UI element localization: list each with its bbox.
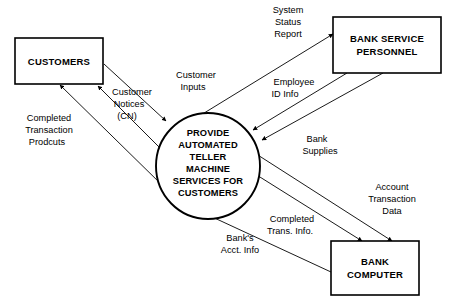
flow-label-system-status-report: System Status Report	[273, 5, 304, 39]
flow-label-completed-transaction-products-line1: Completed	[27, 113, 71, 123]
flow-label-banks-acct-info-line2: Acct. Info	[221, 245, 259, 255]
flow-label-employee-id-info: Employee ID Info	[271, 77, 314, 99]
flow-label-account-transaction-data-line3: Data	[382, 206, 402, 216]
flow-label-customer-notices-line1: Customer	[112, 87, 152, 97]
flow-label-customer-inputs: Customer Inputs	[176, 70, 216, 92]
data-flow-diagram: CUSTOMERS BANK SERVICE PERSONNEL BANK CO…	[0, 0, 452, 307]
flow-label-banks-acct-info: Bank's Acct. Info	[221, 233, 259, 255]
process-label-line3: TELLER	[190, 152, 227, 162]
entity-bank-computer[interactable]: BANK COMPUTER	[331, 241, 419, 295]
flow-label-account-transaction-data-line1: Account	[375, 182, 409, 192]
diagram-canvas: CUSTOMERS BANK SERVICE PERSONNEL BANK CO…	[0, 0, 452, 307]
flow-label-customer-notices: Customer Notices (CN)	[112, 87, 152, 121]
entity-bank-service-personnel[interactable]: BANK SERVICE PERSONNEL	[333, 17, 441, 73]
entity-customers[interactable]: CUSTOMERS	[15, 38, 103, 84]
flow-label-system-status-report-line2: Status	[275, 17, 301, 27]
entity-bank-computer-box[interactable]	[331, 241, 419, 295]
process-label-line6: CUSTOMERS	[178, 188, 238, 198]
flow-label-customer-notices-line2: Notices	[114, 99, 145, 109]
entity-bank-computer-label-line2: COMPUTER	[347, 269, 403, 280]
flow-label-completed-trans-info: Completed Trans. Info.	[267, 214, 314, 236]
flow-label-bank-supplies: Bank Supplies	[302, 134, 338, 156]
entity-bank-service-personnel-label-line1: BANK SERVICE	[350, 33, 424, 44]
flow-label-completed-transaction-products-line3: Prodcuts	[29, 137, 66, 147]
entity-customers-label: CUSTOMERS	[28, 56, 90, 67]
process-provide-atm-services[interactable]: PROVIDE AUTOMATED TELLER MACHINE SERVICE…	[156, 113, 260, 219]
entity-bank-service-personnel-label-line2: PERSONNEL	[357, 46, 418, 57]
process-label-line2: AUTOMATED	[178, 140, 238, 150]
flow-label-system-status-report-line3: Report	[274, 29, 302, 39]
flow-label-employee-id-info-line2: ID Info	[271, 89, 298, 99]
flow-label-system-status-report-line1: System	[273, 5, 304, 15]
process-label-line1: PROVIDE	[187, 128, 230, 138]
flow-label-employee-id-info-line1: Employee	[274, 77, 315, 87]
flow-label-bank-supplies-line2: Supplies	[302, 146, 338, 156]
flow-label-completed-trans-info-line2: Trans. Info.	[267, 226, 313, 236]
entity-bank-computer-label-line1: BANK	[361, 256, 389, 267]
flow-system-status-report-line	[196, 34, 333, 118]
entity-bank-service-personnel-box[interactable]	[333, 17, 441, 73]
flow-label-completed-trans-info-line1: Completed	[270, 214, 314, 224]
flow-label-bank-supplies-line1: Bank	[307, 134, 328, 144]
flow-system-status-report	[196, 34, 333, 118]
process-label-line4: MACHINE	[186, 164, 230, 174]
flow-label-customer-notices-line3: (CN)	[117, 111, 136, 121]
flow-label-banks-acct-info-line1: Bank's	[226, 233, 254, 243]
process-label-line5: SERVICES FOR	[173, 176, 243, 186]
flow-label-account-transaction-data-line2: Transaction	[368, 194, 416, 204]
flow-label-completed-transaction-products-line2: Transaction	[25, 125, 73, 135]
flow-label-account-transaction-data: Account Transaction Data	[368, 182, 416, 216]
flow-label-customer-inputs-line1: Customer	[176, 70, 216, 80]
flow-label-completed-transaction-products: Completed Transaction Prodcuts	[25, 113, 73, 147]
flow-label-customer-inputs-line2: Inputs	[180, 82, 205, 92]
